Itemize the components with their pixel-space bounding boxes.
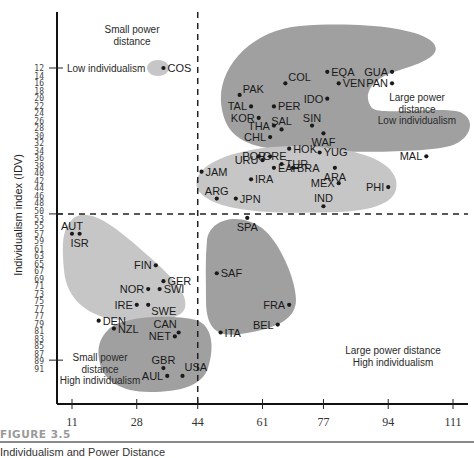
point-label: TAL	[228, 100, 247, 112]
point-label: COL	[288, 71, 311, 83]
point-marker	[386, 185, 390, 189]
point-marker	[325, 97, 329, 101]
point-label: VEN	[343, 77, 366, 89]
data-point-col: COL	[283, 71, 311, 85]
x-tick-label: 28	[131, 415, 143, 429]
point-marker	[424, 154, 428, 158]
point-label: YUG	[324, 146, 348, 158]
quadrant-label-top-left: Small powerdistance	[104, 24, 160, 47]
point-marker	[135, 303, 139, 307]
point-label: BRA	[297, 162, 320, 174]
quadrant-label-line: Large power distance	[345, 345, 441, 356]
point-marker	[337, 81, 341, 85]
point-marker	[272, 124, 276, 128]
point-label: JPN	[240, 193, 261, 205]
point-label: BEL	[253, 319, 274, 331]
middle-cluster	[196, 146, 396, 213]
point-marker	[279, 127, 283, 131]
scatter-chart: 1128446177941111214161820222426283032343…	[0, 0, 474, 430]
point-marker	[238, 93, 242, 97]
data-point-swe: SWE	[146, 303, 176, 317]
cos-cluster	[147, 60, 169, 76]
point-marker	[245, 216, 249, 220]
point-marker	[180, 374, 184, 378]
point-marker	[146, 287, 150, 291]
quadrant-label-line: Large power	[389, 92, 445, 103]
point-marker	[310, 124, 314, 128]
point-label: IRA	[255, 173, 274, 185]
point-label: SPA	[237, 221, 259, 233]
point-marker	[276, 323, 280, 327]
point-label: ARG	[205, 185, 229, 197]
point-label: THA	[248, 120, 271, 132]
point-label: HOK	[293, 143, 318, 155]
point-label: COS	[167, 62, 191, 74]
point-label: CHL	[244, 131, 266, 143]
quadrant-label-top-right: Large powerdistanceLow individualism	[378, 92, 456, 126]
point-label: ISR	[70, 237, 88, 249]
point-marker	[390, 81, 394, 85]
point-marker	[287, 147, 291, 151]
point-marker	[112, 326, 116, 330]
figure-label: FIGURE 3.5	[0, 428, 71, 440]
point-label: ITA	[225, 327, 242, 339]
point-label: EQA	[331, 66, 355, 78]
point-label: FRA	[263, 299, 286, 311]
point-marker	[321, 204, 325, 208]
point-label: SAF	[221, 267, 243, 279]
data-point-pan: PAN	[366, 77, 394, 89]
point-marker	[272, 104, 276, 108]
point-label: USA	[184, 361, 207, 373]
point-marker	[390, 70, 394, 74]
quadrant-label-bottom-right: Large power distanceHigh individualism	[345, 345, 441, 368]
x-tick-label: 44	[192, 415, 204, 429]
point-label: PAK	[243, 83, 265, 95]
point-marker	[97, 319, 101, 323]
figure-divider	[0, 441, 474, 443]
point-marker	[161, 66, 165, 70]
point-marker	[154, 263, 158, 267]
point-marker	[333, 166, 337, 170]
quadrant-label-line: Small power	[104, 24, 160, 35]
point-marker	[234, 196, 238, 200]
point-marker	[218, 330, 222, 334]
quadrant-label-line: Low individualism	[378, 115, 456, 126]
point-marker	[199, 170, 203, 174]
latin-europe-cluster	[206, 219, 296, 335]
point-marker	[70, 232, 74, 236]
point-label: URU	[235, 154, 259, 166]
point-label: AUT	[61, 220, 83, 232]
low-individualism-annotation: Low individualism	[67, 63, 145, 74]
quadrant-label-line: High individualism	[60, 375, 141, 386]
point-marker	[291, 166, 295, 170]
point-label: CAN	[153, 318, 176, 330]
point-label: ARA	[324, 171, 347, 183]
point-marker	[321, 131, 325, 135]
point-label: IND	[314, 192, 333, 204]
point-label: SWE	[151, 305, 176, 317]
point-marker	[173, 334, 177, 338]
figure-caption: Individualism and Power Distance	[0, 446, 165, 458]
point-label: GUA	[364, 66, 389, 78]
point-marker	[283, 81, 287, 85]
point-label: GBR	[152, 354, 176, 366]
x-tick-label: 111	[444, 415, 461, 429]
point-label: FIN	[134, 259, 152, 271]
point-marker	[146, 303, 150, 307]
point-marker	[215, 196, 219, 200]
quadrant-label-line: distance	[113, 36, 151, 47]
point-label: PHI	[366, 181, 384, 193]
y-tick-label: 91	[34, 365, 44, 374]
x-tick-label: 77	[317, 415, 329, 429]
x-tick-label: 11	[66, 415, 78, 429]
quadrant-label-line: Small power	[72, 352, 128, 363]
quadrant-label-line: distance	[398, 104, 436, 115]
point-label: SIN	[303, 112, 321, 124]
quadrant-label-line: distance	[81, 364, 119, 375]
point-label: IDO	[304, 93, 324, 105]
point-marker	[272, 166, 276, 170]
point-marker	[249, 177, 253, 181]
point-marker	[177, 330, 181, 334]
x-tick-label: 61	[257, 415, 269, 429]
point-label: JAM	[206, 166, 228, 178]
